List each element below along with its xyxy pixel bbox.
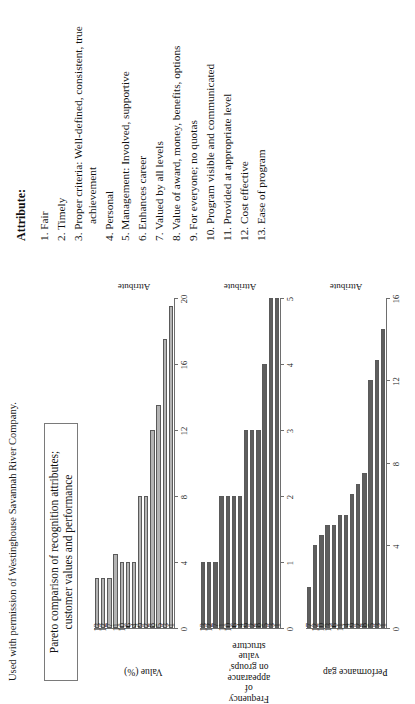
chart-2-tick — [386, 381, 390, 382]
chart-2-bar — [344, 515, 348, 628]
chart-2-tick-label: 16 — [391, 295, 401, 304]
chart-0-bar — [138, 496, 142, 628]
chart-0-bar — [132, 562, 136, 628]
chart-2: Performance gap048121613582941161310127A… — [306, 261, 404, 681]
chart-1-bar — [201, 562, 205, 628]
chart-1-attribute-axis-title: Attribute — [224, 282, 257, 292]
chart-0-tick — [174, 364, 178, 365]
attribute-item: 8. Value of award, money, benefits, opti… — [170, 9, 184, 241]
chart-0-bar — [169, 306, 173, 628]
chart-0-bar — [120, 562, 124, 628]
attribute-item: 6. Enhances career — [136, 9, 150, 241]
chart-1-bar — [269, 298, 273, 628]
chart-2-bar — [307, 587, 311, 628]
chart-2-tick-label: 12 — [391, 377, 401, 386]
chart-1-tick — [280, 562, 284, 563]
chart-0-value-axis-label: Value (%) — [94, 663, 192, 681]
chart-2-bar — [338, 515, 342, 628]
chart-0-tick — [174, 430, 178, 431]
chart-2-bar — [350, 494, 354, 628]
attribute-item: 9. For everyone; no quotas — [187, 9, 201, 241]
chart-2-tick — [386, 546, 390, 547]
attribute-legend-heading: Attribute: — [14, 9, 29, 241]
chart-1-plot: 01234513582946101171213Attribute — [200, 261, 280, 659]
chart-1-bar — [207, 562, 211, 628]
chart-2-plot: 048121613582941161310127Attribute — [306, 261, 386, 659]
chart-1-bar — [213, 562, 217, 628]
chart-2-tick-label: 0 — [391, 627, 401, 631]
chart-1-tick — [280, 496, 284, 497]
chart-0-tick-label: 0 — [179, 627, 189, 631]
chart-0-value-axis — [174, 299, 175, 629]
chart-2-value-axis-label: Performance gap — [306, 663, 404, 681]
chart-1-bar — [232, 496, 236, 628]
charts-container: Value (%)04812162013582946101171213Attri… — [90, 261, 408, 681]
chart-2-bar — [368, 381, 372, 629]
chart-2-tick-label: 8 — [391, 462, 401, 466]
chart-1-category-label: 13 — [198, 623, 208, 636]
chart-1-bar — [244, 430, 248, 628]
chart-0-bar — [156, 405, 160, 628]
chart-1-tick-label: 3 — [285, 429, 295, 433]
attribute-item: 4. Personal — [103, 9, 117, 241]
chart-0-tick-label: 8 — [179, 495, 189, 499]
chart-2-bar — [356, 484, 360, 628]
attribute-item: 5. Management: Involved, supportive — [119, 9, 133, 241]
chart-1-tick-label: 0 — [285, 627, 295, 631]
chart-0-bar — [126, 562, 130, 628]
chart-2-bar — [375, 360, 379, 628]
attribute-item: 10. Program visible and communicated — [204, 9, 218, 241]
chart-1-tick-label: 4 — [285, 363, 295, 367]
chart-2-category-label: 7 — [304, 623, 314, 636]
attribute-item: 7. Valued by all levels — [153, 9, 167, 241]
chart-0-tick — [174, 298, 178, 299]
chart-1-bar — [262, 364, 266, 628]
chart-0-bar — [163, 339, 167, 628]
chart-1: Frequency of appearance on groups' value… — [200, 261, 298, 681]
chart-0-bar — [113, 554, 117, 628]
attribute-item: 13. Ease of program — [255, 9, 269, 241]
chart-0-attribute-axis-title: Attribute — [118, 282, 151, 292]
chart-0-value-axis-label-text: Value (%) — [124, 667, 162, 678]
chart-0-bar — [107, 579, 111, 629]
chart-0-category-label: 13 — [92, 623, 102, 636]
chart-1-tick — [280, 298, 284, 299]
figure-title-box: Pareto comparison of recognition attribu… — [44, 423, 78, 681]
chart-1-bar — [238, 496, 242, 628]
permission-caption: Used with permission of Westinghouse Sav… — [7, 402, 18, 681]
chart-0-bar — [101, 579, 105, 629]
chart-2-tick — [386, 463, 390, 464]
chart-2-attribute-axis-title: Attribute — [330, 282, 363, 292]
chart-1-bar — [219, 496, 223, 628]
attribute-item: 3. Proper criteria: Well-defined, consis… — [72, 9, 100, 241]
chart-1-bar — [275, 298, 279, 628]
chart-0-plot: 04812162013582946101171213Attribute — [94, 261, 174, 659]
chart-2-bar — [381, 329, 385, 628]
chart-0-tick — [174, 496, 178, 497]
attribute-legend: Attribute: 1. Fair2. Timely3. Proper cri… — [14, 9, 271, 241]
chart-0-tick — [174, 562, 178, 563]
chart-2-bar — [332, 525, 336, 628]
chart-1-bar — [250, 430, 254, 628]
chart-2-tick-label: 4 — [391, 544, 401, 548]
chart-1-bar — [226, 496, 230, 628]
chart-0-bar — [95, 579, 99, 629]
chart-1-bar — [256, 430, 260, 628]
chart-1-value-axis-label: Frequency of appearance on groups' value… — [200, 663, 298, 681]
attribute-item: 1. Fair — [38, 9, 52, 241]
chart-2-tick — [386, 298, 390, 299]
attribute-list: 1. Fair2. Timely3. Proper criteria: Well… — [38, 9, 268, 241]
chart-0: Value (%)04812162013582946101171213Attri… — [94, 261, 192, 681]
chart-1-tick — [280, 430, 284, 431]
chart-0-tick-label: 20 — [179, 295, 189, 304]
chart-0-bar — [150, 430, 154, 628]
chart-2-value-axis-label-text: Performance gap — [323, 667, 388, 678]
chart-0-tick-label: 12 — [179, 427, 189, 436]
chart-2-bar — [362, 473, 366, 628]
attribute-item: 11. Provided at appropriate level — [221, 9, 235, 241]
chart-1-value-axis — [280, 299, 281, 629]
chart-0-tick-label: 16 — [179, 361, 189, 370]
chart-2-bar — [313, 546, 317, 629]
